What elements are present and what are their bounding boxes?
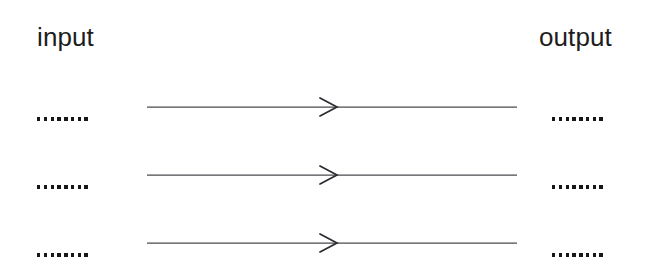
output-marker-dot <box>566 253 569 256</box>
output-marker-dot <box>559 253 562 256</box>
input-marker-dot <box>64 117 67 120</box>
mapping-arrow <box>146 230 518 256</box>
input-marker-dot <box>44 185 47 188</box>
input-marker-dot <box>37 185 40 188</box>
flow-row-3 <box>0 224 662 278</box>
output-marker-dot <box>599 253 602 256</box>
input-dotted-marker <box>37 115 88 123</box>
input-marker-dot <box>57 185 60 188</box>
output-dotted-marker <box>552 115 603 123</box>
input-marker-dot <box>57 117 60 120</box>
input-marker-dot <box>51 253 54 256</box>
input-dotted-marker <box>37 183 88 191</box>
output-marker-dot <box>552 117 555 120</box>
output-marker-dot <box>586 117 589 120</box>
output-marker-dot <box>599 185 602 188</box>
output-marker-dot <box>572 117 575 120</box>
input-dotted-marker <box>37 251 88 259</box>
input-marker-dot <box>71 253 74 256</box>
input-marker-dot <box>51 117 54 120</box>
input-marker-dot <box>84 185 87 188</box>
output-marker-dot <box>559 117 562 120</box>
diagram-canvas: input output <box>0 0 662 278</box>
input-marker-dot <box>84 117 87 120</box>
arrow-svg <box>146 162 518 188</box>
mapping-arrow <box>146 94 518 120</box>
output-marker-dot <box>559 185 562 188</box>
output-dotted-marker <box>552 183 603 191</box>
input-column-label: input <box>37 24 94 50</box>
input-marker-dot <box>37 253 40 256</box>
output-marker-dot <box>593 117 596 120</box>
arrow-svg <box>146 94 518 120</box>
output-marker-dot <box>566 185 569 188</box>
input-marker-dot <box>78 117 81 120</box>
output-marker-dot <box>586 253 589 256</box>
output-marker-dot <box>552 185 555 188</box>
output-marker-dot <box>586 185 589 188</box>
flow-row-2 <box>0 156 662 224</box>
output-marker-dot <box>579 185 582 188</box>
input-marker-dot <box>78 253 81 256</box>
input-marker-dot <box>44 117 47 120</box>
output-marker-dot <box>593 185 596 188</box>
input-marker-dot <box>51 185 54 188</box>
flow-row-1 <box>0 88 662 156</box>
arrow-svg <box>146 230 518 256</box>
input-marker-dot <box>44 253 47 256</box>
output-marker-dot <box>579 117 582 120</box>
input-marker-dot <box>78 185 81 188</box>
input-marker-dot <box>57 253 60 256</box>
output-marker-dot <box>552 253 555 256</box>
input-marker-dot <box>64 253 67 256</box>
output-marker-dot <box>572 185 575 188</box>
input-marker-dot <box>64 185 67 188</box>
output-column-label: output <box>539 24 612 50</box>
mapping-arrow <box>146 162 518 188</box>
input-marker-dot <box>71 185 74 188</box>
input-marker-dot <box>37 117 40 120</box>
output-marker-dot <box>593 253 596 256</box>
input-marker-dot <box>84 253 87 256</box>
input-marker-dot <box>71 117 74 120</box>
output-marker-dot <box>599 117 602 120</box>
output-marker-dot <box>572 253 575 256</box>
output-marker-dot <box>579 253 582 256</box>
output-dotted-marker <box>552 251 603 259</box>
output-marker-dot <box>566 117 569 120</box>
